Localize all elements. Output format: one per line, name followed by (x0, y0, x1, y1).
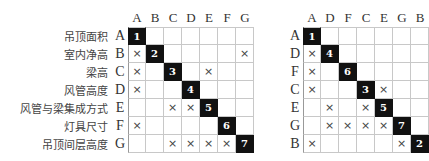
column-key: C (164, 10, 182, 27)
column-key: G (393, 10, 411, 27)
empty-cell (375, 63, 393, 81)
empty-cell (218, 99, 236, 117)
empty-cell (357, 63, 375, 81)
diagonal-order-cell: 3 (357, 81, 375, 99)
column-key: A (303, 10, 321, 27)
dependency-mark-cell: × (303, 45, 321, 63)
row-cells: ××2 (303, 135, 429, 153)
matrix-row: 吊顶面积A1 (0, 27, 254, 45)
row-cells: 1 (303, 27, 429, 45)
empty-cell (164, 45, 182, 63)
empty-cell (393, 99, 411, 117)
empty-cell (236, 63, 254, 81)
empty-cell (393, 81, 411, 99)
empty-cell (236, 99, 254, 117)
empty-cell (375, 45, 393, 63)
empty-cell (357, 27, 375, 45)
column-key: E (200, 10, 218, 27)
matrix-row: 吊顶间层高度G××××7 (0, 135, 254, 153)
dependency-mark-cell: × (200, 63, 218, 81)
column-key: B (146, 10, 164, 27)
dependency-mark-cell: × (182, 99, 200, 117)
empty-cell (236, 81, 254, 99)
dependency-mark-cell: × (218, 135, 236, 153)
empty-cell (182, 63, 200, 81)
empty-cell (182, 45, 200, 63)
row-key: D (112, 82, 128, 98)
row-key: B (112, 46, 128, 62)
dependency-mark-cell: × (164, 99, 182, 117)
row-key: E (287, 100, 303, 116)
empty-cell (164, 27, 182, 45)
dependency-mark-cell: × (375, 81, 393, 99)
empty-cell (339, 99, 357, 117)
diagonal-order-cell: 4 (321, 45, 339, 63)
column-key: F (218, 10, 236, 27)
matrix-row: A1 (254, 27, 429, 45)
empty-cell (321, 135, 339, 153)
empty-cell (375, 135, 393, 153)
empty-cell (339, 27, 357, 45)
empty-cell (357, 135, 375, 153)
dependency-mark-cell: × (303, 135, 321, 153)
row-cells: ×6 (303, 63, 429, 81)
empty-cell (200, 117, 218, 135)
row-cells: ××××7 (303, 117, 429, 135)
empty-cell (321, 81, 339, 99)
empty-cell (128, 99, 146, 117)
empty-cell (411, 99, 429, 117)
row-cells: ×3× (303, 81, 429, 99)
diagonal-order-cell: 6 (339, 63, 357, 81)
dependency-mark-cell: × (200, 135, 218, 153)
row-cells: ×3× (128, 63, 254, 81)
row-cells: ××××7 (128, 135, 254, 153)
column-key: C (357, 10, 375, 27)
diagonal-order-cell: 4 (182, 81, 200, 99)
empty-cell (146, 135, 164, 153)
dependency-mark-cell: × (164, 135, 182, 153)
diagonal-order-cell: 2 (411, 135, 429, 153)
empty-cell (303, 117, 321, 135)
row-cells: ×2× (128, 45, 254, 63)
matrix-row: C×3× (254, 81, 429, 99)
empty-cell (200, 27, 218, 45)
empty-cell (146, 63, 164, 81)
empty-cell (218, 27, 236, 45)
dependency-mark-cell: × (128, 117, 146, 135)
empty-cell (393, 27, 411, 45)
column-header-row: A D F C E G B (254, 6, 429, 27)
column-key: E (375, 10, 393, 27)
empty-cell (411, 45, 429, 63)
matrix-row: 风管与梁集成方式E××5 (0, 99, 254, 117)
row-label: 灯具尺寸 (0, 118, 112, 134)
empty-cell (182, 117, 200, 135)
diagonal-order-cell: 1 (303, 27, 321, 45)
dependency-mark-cell: × (128, 45, 146, 63)
dependency-mark-cell: × (321, 117, 339, 135)
diagonal-order-cell: 1 (128, 27, 146, 45)
row-cells: ×6 (128, 117, 254, 135)
empty-cell (236, 117, 254, 135)
empty-cell (236, 27, 254, 45)
matrix-row: F×6 (254, 63, 429, 81)
diagonal-order-cell: 5 (375, 99, 393, 117)
empty-cell (411, 27, 429, 45)
empty-cell (411, 117, 429, 135)
dependency-mark-cell: × (375, 117, 393, 135)
row-key: B (287, 136, 303, 152)
row-key: A (112, 28, 128, 44)
dependency-mark-cell: × (128, 63, 146, 81)
matrix-row: B××2 (254, 135, 429, 153)
row-cells: ×4 (303, 45, 429, 63)
column-key: F (339, 10, 357, 27)
matrix-row: 灯具尺寸F×6 (0, 117, 254, 135)
row-key: D (287, 46, 303, 62)
row-cells: 1 (128, 27, 254, 45)
dependency-mark-cell: × (357, 117, 375, 135)
matrix-row: G××××7 (254, 117, 429, 135)
empty-cell (164, 81, 182, 99)
empty-cell (218, 63, 236, 81)
empty-cell (339, 81, 357, 99)
empty-cell (146, 27, 164, 45)
dependency-mark-cell: × (128, 81, 146, 99)
